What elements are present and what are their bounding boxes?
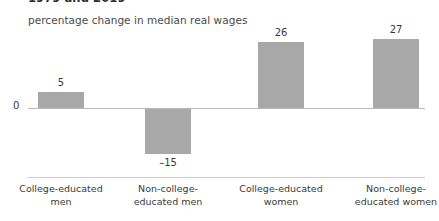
category-label-line-1: College-educated [239, 183, 322, 194]
category-axis-rule [28, 177, 425, 178]
category-label-line-2: educated men [134, 196, 203, 207]
bar-college-educated-women [258, 42, 304, 108]
category-label-line-1: Non-college- [138, 183, 198, 194]
zero-axis-line [28, 108, 425, 109]
bar-value-college-educated-women: 26 [258, 28, 304, 38]
category-label-line-2: women [264, 196, 299, 207]
plot-area: 0 5 –15 26 27 [0, 0, 439, 177]
category-label-line-2: men [50, 196, 71, 207]
category-label-college-educated-men: College-educated men [6, 183, 116, 208]
bar-non-college-educated-women [373, 39, 419, 108]
category-label-non-college-educated-women: Non-college- educated women [341, 183, 439, 208]
category-label-line-1: College-educated [19, 183, 102, 194]
wage-change-bar-chart: 1979 and 2019 percentage change in media… [0, 0, 439, 221]
bar-college-educated-men [38, 92, 84, 108]
category-label-line-2: educated women [355, 196, 437, 207]
bar-value-college-educated-men: 5 [38, 78, 84, 88]
category-label-line-1: Non-college- [366, 183, 426, 194]
bar-value-non-college-educated-men: –15 [145, 158, 191, 168]
category-axis-labels: College-educated men Non-college- educat… [0, 183, 439, 221]
category-label-college-educated-women: College-educated women [226, 183, 336, 208]
bar-value-non-college-educated-women: 27 [373, 25, 419, 35]
bar-non-college-educated-men [145, 109, 191, 154]
zero-axis-label: 0 [13, 101, 19, 111]
category-label-non-college-educated-men: Non-college- educated men [113, 183, 223, 208]
